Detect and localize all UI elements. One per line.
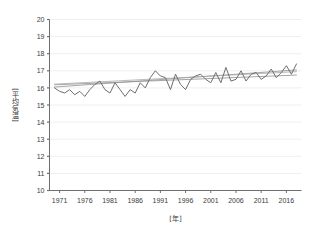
y-axis-tick-label: 20 xyxy=(37,16,45,23)
trend-line xyxy=(55,75,297,85)
y-axis-tick-label: 10 xyxy=(37,187,45,194)
x-axis-tick-label: 2016 xyxy=(279,197,295,204)
y-axis-tick-label: 17 xyxy=(37,67,45,74)
x-axis-tick-label: 2001 xyxy=(203,197,219,204)
x-axis-tick-label: 1976 xyxy=(77,197,93,204)
x-axis-tick-label: 2011 xyxy=(254,197,269,204)
y-axis-title: [平均気温] xyxy=(11,88,20,122)
x-axis-tick-label: 2006 xyxy=(228,197,244,204)
y-axis-tick-label: 14 xyxy=(37,119,45,126)
x-axis-tick-label: 1996 xyxy=(178,197,194,204)
y-axis-tick-label: 15 xyxy=(37,102,45,109)
x-axis-title: [年] xyxy=(169,214,182,223)
y-axis-tick-label: 19 xyxy=(37,33,45,40)
chart-canvas: 1011121314151617181920197119761981198619… xyxy=(0,0,320,237)
x-axis-tick-label: 1971 xyxy=(52,197,68,204)
y-axis-tick-label: 11 xyxy=(37,170,44,177)
temperature-line-chart: 1011121314151617181920197119761981198619… xyxy=(0,0,320,237)
y-axis-tick-label: 16 xyxy=(37,85,45,92)
x-axis-tick-label: 1991 xyxy=(153,197,169,204)
y-axis-tick-label: 18 xyxy=(37,50,45,57)
x-axis-tick-label: 1981 xyxy=(102,197,118,204)
y-axis-tick-label: 13 xyxy=(37,136,45,143)
y-axis-tick-label: 12 xyxy=(37,153,45,160)
x-axis-tick-label: 1986 xyxy=(127,197,143,204)
